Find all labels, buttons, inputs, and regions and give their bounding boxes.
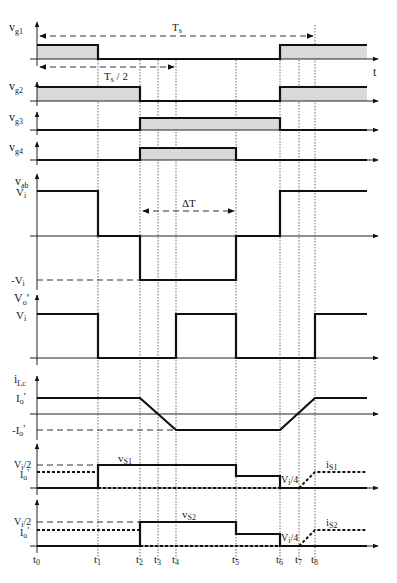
vs2-vi4-label: Vi/4 [281,532,298,545]
signal-vg1: vg1 Ts t Ts / 2 [9,20,378,84]
t2-label: t2 [136,553,143,567]
t7-label: t7 [295,553,302,567]
time-labels: t0 t1 t2 t3 t4 t5 t6 t7 t8 [33,553,318,567]
t8-label: t8 [311,553,318,567]
vo-vi-level: Vi [16,309,27,323]
time-axis-label: t [373,65,377,79]
ilc-label: iLc [14,372,26,388]
signal-ilc: iLc Io' -Io' [12,372,378,440]
signal-vo: Vo' Vi [14,291,378,365]
signal-vg4: vg4 [9,140,378,165]
signal-vs1: Vi/2 Io' vS1 Vi/4 iS1 [14,444,378,495]
vs1-vi4-label: Vi/4 [281,474,298,487]
signal-vg3: vg3 [9,110,378,135]
t3-label: t3 [154,553,161,567]
is2-label: iS2 [326,516,338,530]
timing-diagram: vg1 Ts t Ts / 2 vg2 vg3 vg4 vab V [0,0,397,583]
vs2-io-level: Io' [20,525,29,540]
delta-t-label: ΔT [182,197,196,209]
t0-label: t0 [33,553,40,567]
vab-neg-vi-level: -Vi [11,274,26,288]
t1-label: t1 [94,553,101,567]
vg3-label: vg3 [9,110,23,126]
vg1-label: vg1 [9,20,23,36]
signal-vab: vab Vi -Vi ΔT [11,174,378,290]
is1-label: iS1 [326,458,338,472]
t5-label: t5 [232,553,239,567]
t6-label: t6 [276,553,283,567]
half-period-label: Ts / 2 [104,70,128,84]
vs2-inline-label: vS2 [182,508,196,522]
t4-label: t4 [172,553,179,567]
vo-label: Vo' [14,291,29,307]
vg2-label: vg2 [9,79,23,95]
ilc-io-level: Io' [16,390,26,406]
signal-vg2: vg2 [9,79,378,106]
period-label: Ts [172,21,182,35]
vg4-label: vg4 [9,140,23,156]
vs1-inline-label: vS1 [118,452,132,466]
ilc-neg-io-level: -Io' [12,422,25,438]
signal-vs2: Vi/2 Io' vS2 Vi/4 iS2 [14,500,378,553]
